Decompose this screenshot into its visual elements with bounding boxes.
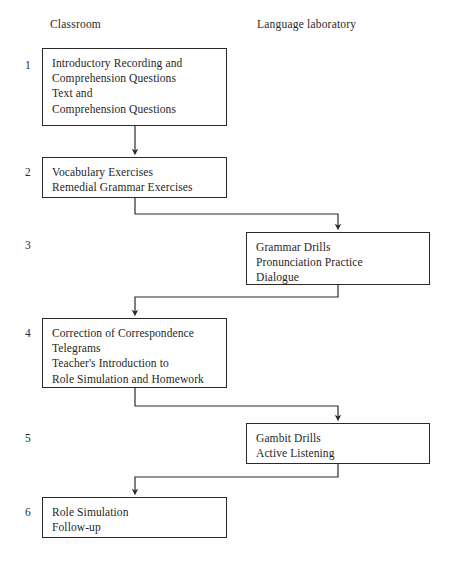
step-5-line-1: Gambit Drills: [256, 431, 429, 446]
connector-3-to-4: [135, 285, 338, 313]
connector-4-to-5: [135, 388, 338, 418]
step-number-5: 5: [25, 433, 37, 445]
step-4-line-3: Teacher's Introduction to: [52, 356, 226, 371]
step-1-line-2: Comprehension Questions: [52, 71, 226, 86]
step-box-1[interactable]: Introductory Recording and Comprehension…: [42, 48, 227, 126]
column-header-language-laboratory: Language laboratory: [257, 18, 356, 32]
step-6-line-2: Follow-up: [52, 520, 226, 535]
step-3-line-1: Grammar Drills: [256, 240, 429, 255]
step-1-line-3: Text and: [52, 86, 226, 101]
step-6-line-1: Role Simulation: [52, 505, 226, 520]
column-header-classroom: Classroom: [50, 18, 101, 32]
connector-2-to-3: [135, 198, 338, 227]
step-4-line-1: Correction of Correspondence: [52, 326, 226, 341]
flowchart-diagram: Classroom Language laboratory 1 Introduc…: [0, 0, 451, 564]
step-number-6: 6: [25, 507, 37, 519]
step-number-1: 1: [25, 60, 37, 72]
step-number-3: 3: [25, 240, 37, 252]
step-4-line-4: Role Simulation and Homework: [52, 372, 226, 387]
step-4-line-2: Telegrams: [52, 341, 226, 356]
step-box-5[interactable]: Gambit Drills Active Listening: [246, 423, 430, 464]
connector-5-to-6: [135, 464, 338, 492]
step-box-2[interactable]: Vocabulary Exercises Remedial Grammar Ex…: [42, 157, 227, 198]
page-artifact-text: [48, 0, 51, 9]
step-3-line-2: Pronunciation Practice: [256, 255, 429, 270]
step-5-line-2: Active Listening: [256, 446, 429, 461]
step-2-line-1: Vocabulary Exercises: [52, 165, 226, 180]
step-box-3[interactable]: Grammar Drills Pronunciation Practice Di…: [246, 232, 430, 285]
step-box-6[interactable]: Role Simulation Follow-up: [42, 497, 227, 538]
step-1-line-1: Introductory Recording and: [52, 56, 226, 71]
step-1-line-4: Comprehension Questions: [52, 102, 226, 117]
step-box-4[interactable]: Correction of Correspondence Telegrams T…: [42, 318, 227, 388]
step-number-4: 4: [25, 328, 37, 340]
step-number-2: 2: [25, 167, 37, 179]
step-3-line-3: Dialogue: [256, 270, 429, 285]
step-2-line-2: Remedial Grammar Exercises: [52, 180, 226, 195]
